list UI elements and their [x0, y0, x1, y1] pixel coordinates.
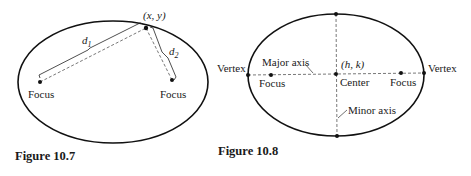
figure-caption: Figure 10.7 [15, 149, 75, 163]
focus-left-label: Focus [28, 88, 54, 100]
focus-left-dot [38, 80, 42, 84]
vertex-left-dot [246, 73, 250, 77]
covertex-top-dot [334, 12, 338, 16]
focus-right-label: Focus [160, 88, 186, 100]
d1-label: d1 [82, 34, 92, 49]
center-label: Center [340, 76, 370, 88]
figure-10-7: (x, y) d1 d2 Focus Focus Figure 10.7 [15, 9, 208, 163]
figure-10-8: Vertex Vertex (h, k) Center Focus Focus … [217, 12, 457, 158]
major-axis-label: Major axis [262, 56, 309, 68]
d1-brace [39, 23, 143, 78]
point-xy [144, 26, 148, 30]
covertex-bottom-dot [335, 134, 339, 138]
minor-axis-leader [338, 110, 347, 118]
minor-axis-label: Minor axis [348, 104, 396, 116]
focus-right-dot [170, 78, 174, 82]
dashed-line-focus1-to-point [40, 28, 146, 82]
focus-right-label: Focus [390, 76, 416, 88]
ellipse-diagrams: (x, y) d1 d2 Focus Focus Figure 10.7 Ver… [0, 0, 471, 176]
vertex-left-label: Vertex [217, 62, 246, 74]
point-xy-label: (x, y) [143, 9, 166, 22]
vertex-right-label: Vertex [428, 62, 457, 74]
focus-left-label: Focus [259, 77, 285, 89]
center-coords-label: (h, k) [341, 58, 365, 71]
ellipse [18, 21, 208, 143]
d2-label: d2 [169, 45, 179, 60]
vertex-right-dot [422, 71, 426, 75]
center-dot [334, 72, 338, 76]
focus-right-dot [399, 71, 403, 75]
figure-caption: Figure 10.8 [218, 144, 278, 158]
